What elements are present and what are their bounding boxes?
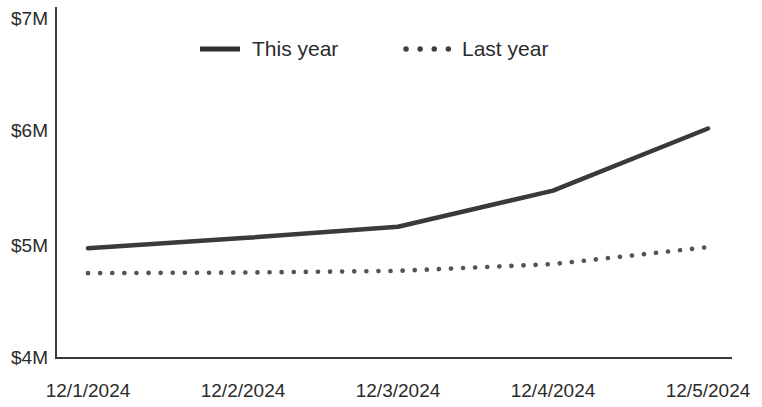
legend-item-last-year: Last year bbox=[406, 37, 548, 60]
legend-label-last-year: Last year bbox=[462, 37, 548, 60]
line-chart: This year Last year $7M $6M $5M $4M 12/1… bbox=[0, 0, 762, 407]
y-axis-tick-label-2: $5M bbox=[11, 235, 48, 256]
y-axis-tick-label-1: $6M bbox=[11, 120, 48, 141]
chart-canvas: This year Last year $7M $6M $5M $4M 12/1… bbox=[0, 0, 762, 407]
x-axis-tick-label-0: 12/1/2024 bbox=[46, 380, 131, 401]
y-axis-tick-label-3: $4M bbox=[11, 347, 48, 368]
series-line-last-year bbox=[88, 247, 708, 273]
x-axis-tick-label-4: 12/5/2024 bbox=[666, 380, 751, 401]
series-line-this-year bbox=[88, 128, 708, 248]
chart-legend: This year Last year bbox=[200, 37, 548, 60]
x-axis-tick-label-1: 12/2/2024 bbox=[201, 380, 286, 401]
x-axis-tick-label-2: 12/3/2024 bbox=[356, 380, 441, 401]
legend-item-this-year: This year bbox=[200, 37, 338, 60]
y-axis-tick-label-0: $7M bbox=[11, 8, 48, 29]
legend-label-this-year: This year bbox=[252, 37, 338, 60]
x-axis-tick-label-3: 12/4/2024 bbox=[511, 380, 596, 401]
chart-axes bbox=[56, 8, 731, 358]
